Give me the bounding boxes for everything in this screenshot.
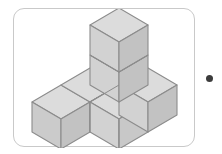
figure-frame: Solid figure built from unit cubes xyxy=(13,8,195,147)
cube-structure-illustration xyxy=(14,9,196,148)
figure-screenshot-root: Solid figure built from unit cubes xyxy=(0,0,222,154)
answer-bullet-dot[interactable] xyxy=(206,75,213,82)
